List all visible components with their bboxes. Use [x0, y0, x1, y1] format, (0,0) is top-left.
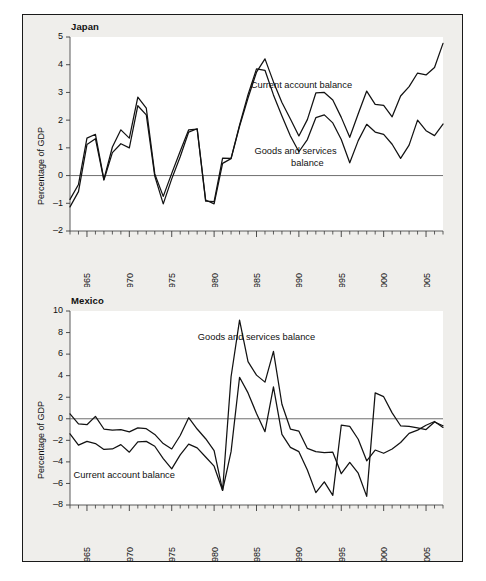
x-tick-label: 1990: [294, 273, 304, 287]
y-tick-label: 6: [58, 348, 63, 358]
y-tick-label: –6: [53, 478, 63, 488]
x-tick-label: 1995: [337, 273, 347, 287]
y-tick-label: –2: [53, 435, 63, 445]
x-tick-label: 1970: [125, 273, 135, 287]
y-tick-label: –1: [53, 198, 63, 208]
x-tick-label: 1980: [210, 273, 220, 287]
x-tick-label: 1970: [125, 547, 135, 561]
panel-mexico: Mexico Percentage of GDP –8–6–4–20246810…: [23, 289, 462, 561]
x-tick-label: 1985: [252, 547, 262, 561]
y-tick-label: 4: [58, 59, 63, 69]
x-tick-label: 1990: [294, 547, 304, 561]
x-tick-label: 2005: [422, 547, 432, 561]
plot-japan: –2–1012345196519701975198019851990199520…: [23, 15, 464, 287]
x-tick-label: 2005: [422, 273, 432, 287]
x-tick-label: 1975: [167, 547, 177, 561]
figure-frame: Japan Percentage of GDP –2–1012345196519…: [22, 14, 463, 562]
plot-mexico: –8–6–4–202468101965197019751980198519901…: [23, 289, 464, 561]
y-tick-label: –4: [53, 456, 63, 466]
y-tick-label: 8: [58, 327, 63, 337]
y-tick-label: –2: [53, 225, 63, 235]
y-tick-label: 4: [58, 370, 63, 380]
x-tick-label: 2000: [379, 547, 389, 561]
y-tick-label: –8: [53, 499, 63, 509]
series-annotation: Goods and services balance: [198, 332, 315, 342]
x-tick-label: 1980: [210, 547, 220, 561]
figure-root: Japan Percentage of GDP –2–1012345196519…: [0, 0, 486, 581]
y-tick-label: 5: [58, 31, 63, 41]
y-tick-label: 2: [58, 115, 63, 125]
y-tick-label: 3: [58, 87, 63, 97]
x-tick-label: 1965: [82, 547, 92, 561]
x-tick-label: 2000: [379, 273, 389, 287]
series-annotation: Current account balance: [251, 80, 352, 90]
y-tick-label: 0: [58, 413, 63, 423]
x-tick-label: 1985: [252, 273, 262, 287]
series-annotation: Current account balance: [74, 470, 175, 480]
series-annotation: Goods and services: [254, 146, 337, 156]
series-annotation: balance: [291, 158, 324, 168]
x-tick-label: 1975: [167, 273, 177, 287]
x-tick-label: 1965: [82, 273, 92, 287]
y-tick-label: 0: [58, 170, 63, 180]
panel-japan: Japan Percentage of GDP –2–1012345196519…: [23, 15, 462, 287]
y-tick-label: 1: [58, 142, 63, 152]
x-tick-label: 1995: [337, 547, 347, 561]
y-tick-label: 10: [53, 305, 63, 315]
y-tick-label: 2: [58, 392, 63, 402]
